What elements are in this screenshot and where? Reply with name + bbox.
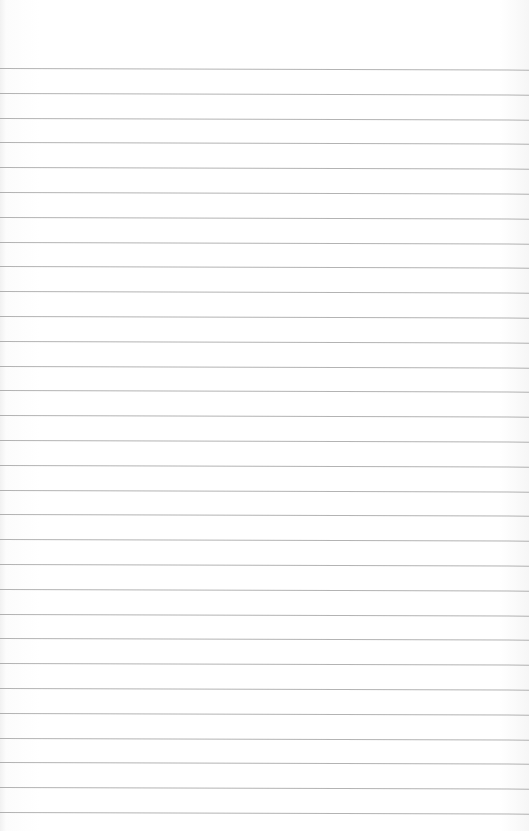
ruled-line bbox=[0, 316, 529, 319]
ruled-line bbox=[0, 266, 529, 269]
ruled-line bbox=[0, 713, 529, 716]
ruled-line bbox=[0, 242, 529, 245]
ruled-line bbox=[0, 415, 529, 418]
ruled-line bbox=[0, 142, 529, 145]
ruled-line bbox=[0, 291, 529, 294]
ruled-line bbox=[0, 688, 529, 691]
ruled-line bbox=[0, 93, 529, 96]
ruled-line bbox=[0, 564, 529, 567]
ruled-line bbox=[0, 167, 529, 170]
ruled-line bbox=[0, 192, 529, 195]
ruled-line bbox=[0, 440, 529, 443]
ruled-line bbox=[0, 68, 529, 71]
ruled-line bbox=[0, 663, 529, 666]
ruled-line bbox=[0, 787, 529, 790]
ruled-line bbox=[0, 589, 529, 592]
ruled-line bbox=[0, 465, 529, 468]
ruled-line bbox=[0, 638, 529, 641]
ruled-line bbox=[0, 614, 529, 617]
ruled-line bbox=[0, 762, 529, 765]
ruled-line bbox=[0, 812, 529, 815]
ruled-line bbox=[0, 341, 529, 344]
ruled-line bbox=[0, 217, 529, 220]
ruled-line bbox=[0, 738, 529, 741]
ruled-line bbox=[0, 118, 529, 121]
ruled-line bbox=[0, 490, 529, 493]
ruled-line bbox=[0, 514, 529, 517]
ruled-line bbox=[0, 366, 529, 369]
ruled-line bbox=[0, 390, 529, 393]
lined-paper-page bbox=[0, 0, 529, 831]
ruled-line bbox=[0, 539, 529, 542]
